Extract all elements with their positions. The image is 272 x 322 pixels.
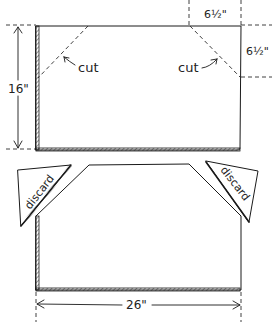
top-panel: cut cut 6½" 6½" 16" — [6, 0, 272, 151]
discard-piece-right: discard — [206, 161, 258, 222]
discard-piece-left: discard — [18, 165, 71, 226]
cut-arrow-right — [202, 59, 217, 68]
discard-label-left: discard — [22, 172, 57, 211]
corner-width-label: 6½" — [204, 8, 227, 21]
panel-outline — [36, 26, 241, 150]
height-label: 16" — [8, 82, 29, 96]
panel-left-edge — [36, 26, 39, 150]
bottom-panel: discard discard 26" — [18, 161, 258, 322]
width-dimension: 26" — [36, 292, 241, 322]
cutting-diagram: cut cut 6½" 6½" 16" discard — [0, 0, 272, 322]
cut-label-left: cut — [78, 60, 98, 75]
panel-bottom-edge — [36, 148, 240, 151]
cut-arrow-left — [64, 57, 75, 65]
trimmed-panel-outline — [36, 164, 241, 290]
cut-label-right: cut — [178, 60, 198, 75]
trimmed-left-edge — [36, 216, 39, 290]
trimmed-bottom-edge — [36, 288, 240, 291]
height-dimension: 16" — [8, 27, 29, 148]
corner-height-label: 6½" — [246, 45, 269, 58]
width-label: 26" — [126, 298, 147, 312]
